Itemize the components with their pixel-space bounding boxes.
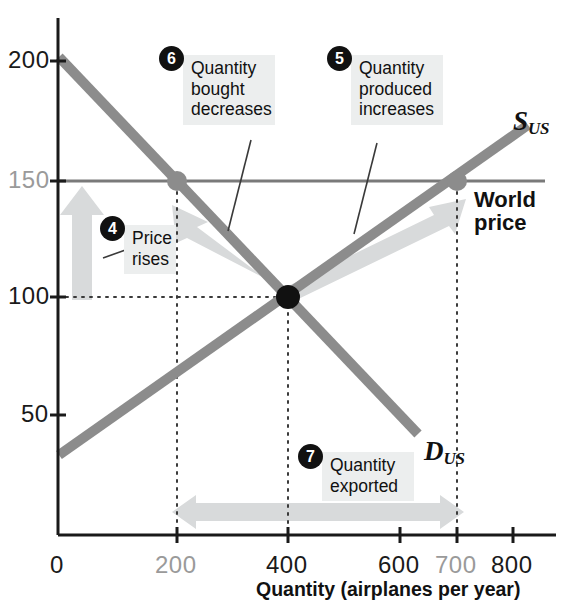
marker-equilibrium-400-100 bbox=[276, 285, 300, 309]
callout-4: Price rises bbox=[124, 225, 176, 274]
callout-5-line-2: produced bbox=[359, 79, 437, 100]
callout-7: Quantity exported bbox=[322, 452, 414, 501]
y-tick-label-50: 50 bbox=[21, 400, 49, 428]
quantity-produced-arrow bbox=[276, 199, 466, 305]
leader-6 bbox=[228, 140, 251, 231]
demand-curve-subscript: US bbox=[444, 449, 465, 468]
x-tick-label-800: 800 bbox=[491, 551, 533, 579]
supply-curve-letter: S bbox=[513, 106, 528, 136]
callout-5: Quantity produced increases bbox=[351, 55, 443, 125]
x-axis-title: Quantity (airplanes per year) bbox=[256, 578, 520, 601]
callout-5-line-1: Quantity bbox=[359, 58, 437, 79]
world-price-label: World price bbox=[474, 188, 536, 234]
x-tick-label-200: 200 bbox=[155, 551, 197, 579]
callout-6-line-2: bought bbox=[191, 79, 269, 100]
marker-700-150 bbox=[447, 171, 467, 191]
callout-4-line-2: rises bbox=[132, 249, 170, 270]
callout-4-line-1: Price bbox=[132, 228, 170, 249]
chart-figure: 200 150 100 50 0 200 400 600 700 800 Qua… bbox=[0, 0, 563, 605]
world-price-label-line-1: World bbox=[474, 188, 536, 211]
demand-curve-letter: D bbox=[424, 436, 444, 466]
x-tick-label-400: 400 bbox=[266, 551, 308, 579]
callout-7-line-1: Quantity bbox=[330, 455, 408, 476]
y-tick-label-150: 150 bbox=[8, 166, 50, 194]
y-tick-label-200: 200 bbox=[8, 46, 50, 74]
callout-6-line-3: decreases bbox=[191, 99, 269, 120]
supply-curve-label: SUS bbox=[513, 106, 549, 137]
callout-badge-7: 7 bbox=[298, 444, 323, 469]
demand-curve-label: DUS bbox=[424, 436, 465, 467]
callout-badge-5: 5 bbox=[327, 46, 352, 71]
x-tick-label-600: 600 bbox=[378, 551, 420, 579]
callout-5-line-3: increases bbox=[359, 99, 437, 120]
callout-7-line-2: exported bbox=[330, 476, 408, 497]
marker-200-150 bbox=[167, 171, 187, 191]
supply-curve-subscript: US bbox=[528, 119, 549, 138]
callout-badge-6: 6 bbox=[159, 46, 184, 71]
x-tick-label-0: 0 bbox=[50, 551, 64, 579]
x-tick-label-700: 700 bbox=[435, 551, 477, 579]
callout-leaders bbox=[103, 140, 377, 489]
world-price-label-line-2: price bbox=[474, 211, 536, 234]
leader-5 bbox=[354, 143, 377, 234]
callout-badge-4: 4 bbox=[100, 216, 125, 241]
y-tick-label-100: 100 bbox=[8, 282, 50, 310]
quantity-exported-arrow bbox=[172, 495, 464, 529]
chart-canvas bbox=[0, 0, 563, 605]
callout-6-line-1: Quantity bbox=[191, 58, 269, 79]
price-rises-arrow bbox=[60, 186, 104, 300]
callout-6: Quantity bought decreases bbox=[183, 55, 275, 125]
